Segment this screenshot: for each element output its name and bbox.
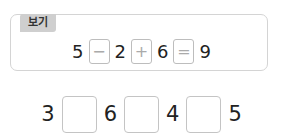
answer-blank-1[interactable] <box>62 96 97 133</box>
example-number-2: 2 <box>115 41 126 62</box>
problem-number-2: 6 <box>104 102 117 126</box>
example-number-1: 5 <box>72 41 83 62</box>
example-number-4: 9 <box>199 41 210 62</box>
example-equation: 5 − 2 + 6 = 9 <box>0 38 283 65</box>
example-operator-plus: + <box>131 39 152 64</box>
example-operator-minus: − <box>89 39 110 64</box>
problem-equation: 3 6 4 5 <box>0 95 283 133</box>
problem-number-3: 4 <box>166 102 179 126</box>
example-operator-equals: = <box>173 39 194 64</box>
problem-number-4: 5 <box>228 102 241 126</box>
problem-number-1: 3 <box>41 102 54 126</box>
example-label: 보기 <box>20 14 56 32</box>
answer-blank-2[interactable] <box>124 96 159 133</box>
answer-blank-3[interactable] <box>186 96 221 133</box>
example-number-3: 6 <box>157 41 168 62</box>
